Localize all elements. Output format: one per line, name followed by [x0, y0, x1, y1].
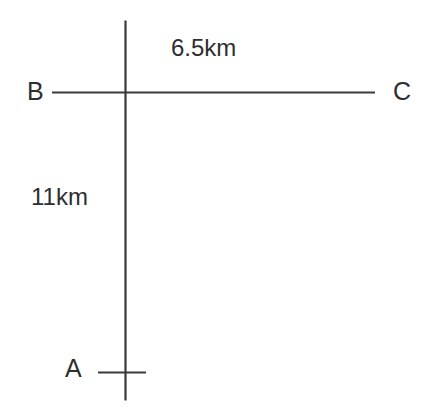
dimension-label-ab: 11km — [31, 185, 88, 209]
dimension-label-bc: 6.5km — [171, 36, 236, 60]
vertex-label-c: C — [393, 79, 411, 104]
geometry-diagram: B C A 6.5km 11km — [0, 0, 428, 416]
diagram-strokes — [52, 21, 375, 401]
vertex-label-a: A — [65, 356, 82, 381]
vertex-label-b: B — [27, 79, 44, 104]
